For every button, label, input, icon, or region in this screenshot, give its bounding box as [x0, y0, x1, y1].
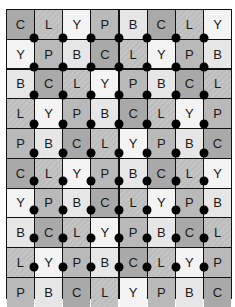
grid-cell: B — [120, 159, 147, 188]
grid-cell: Y — [63, 159, 90, 188]
grid-cell: L — [204, 218, 231, 247]
grid-cell: C — [176, 70, 203, 99]
grid-cell: L — [120, 40, 147, 69]
grid-cell: L — [91, 278, 118, 307]
grid-cell: P — [7, 278, 34, 307]
grid-cell: B — [176, 278, 203, 307]
grid-cell: Y — [35, 248, 62, 277]
grid-cell: Y — [35, 99, 62, 128]
grid-cell: C — [120, 248, 147, 277]
grid-cell: P — [148, 278, 175, 307]
grid-cell: P — [204, 99, 231, 128]
grid-cell: C — [63, 129, 90, 158]
grid-cell: P — [63, 248, 90, 277]
grid-cell: Y — [63, 10, 90, 39]
grid-cell: C — [91, 189, 118, 218]
grid-cell: Y — [91, 218, 118, 247]
grid-cell: Y — [204, 10, 231, 39]
grid-cell: C — [63, 278, 90, 307]
grid-cell: L — [7, 99, 34, 128]
grid-cell: C — [148, 159, 175, 188]
grid-cell: B — [204, 189, 231, 218]
grid-cell: B — [7, 70, 34, 99]
grid-cell: B — [148, 70, 175, 99]
grid-cell: L — [176, 159, 203, 188]
grid-cell: C — [7, 159, 34, 188]
grid-cell: C — [204, 129, 231, 158]
grid-cell: P — [176, 189, 203, 218]
grid-cell: B — [63, 189, 90, 218]
grid-cell: Y — [176, 99, 203, 128]
grid-cell: P — [120, 218, 147, 247]
grid-cell: P — [120, 70, 147, 99]
grid-cell: Y — [148, 189, 175, 218]
grid-cell: L — [63, 70, 90, 99]
grid-cell: C — [176, 218, 203, 247]
grid-cell: C — [148, 10, 175, 39]
grid-cell: Y — [204, 159, 231, 188]
grid-cell: Y — [148, 40, 175, 69]
grid-cell: B — [35, 129, 62, 158]
grid-cell: Y — [120, 278, 147, 307]
grid-cell: L — [7, 248, 34, 277]
grid-cell: L — [63, 218, 90, 247]
grid-cell: C — [7, 10, 34, 39]
grid-cell: L — [91, 129, 118, 158]
grid-cell: C — [91, 40, 118, 69]
grid-cell: L — [204, 70, 231, 99]
grid-cell: P — [204, 248, 231, 277]
grid-cell: P — [35, 189, 62, 218]
grid-cell: B — [35, 278, 62, 307]
grid-cell: L — [120, 189, 147, 218]
grid-cell: P — [148, 129, 175, 158]
grid-cell: B — [91, 248, 118, 277]
grid-cell: Y — [7, 189, 34, 218]
grid-cell: Y — [176, 248, 203, 277]
grid-cell: P — [176, 40, 203, 69]
grid-cell: P — [91, 10, 118, 39]
grid-cell: P — [35, 40, 62, 69]
grid-cell: B — [176, 129, 203, 158]
grid-cell: P — [63, 99, 90, 128]
grid-cell: C — [120, 99, 147, 128]
grid-cell: B — [204, 40, 231, 69]
grid-cell: C — [35, 70, 62, 99]
grid-cell: L — [148, 99, 175, 128]
grid-cell: P — [91, 159, 118, 188]
grid-cell: P — [7, 129, 34, 158]
grid-cell: B — [91, 99, 118, 128]
grid-cell: Y — [91, 70, 118, 99]
grid-cell: C — [35, 218, 62, 247]
grid-cell: L — [35, 159, 62, 188]
grid-cell: B — [120, 10, 147, 39]
grid-cell: B — [63, 40, 90, 69]
grid-cell: L — [148, 248, 175, 277]
grid-cell: B — [7, 218, 34, 247]
grid-cell: L — [35, 10, 62, 39]
grid-cell: C — [204, 278, 231, 307]
grid-cell: L — [176, 10, 203, 39]
grid-cell: Y — [7, 40, 34, 69]
letter-grid: CLYPBCLYYPBCLYPBBCLYPBCLLYPBCLYPPBCLYPBC… — [6, 9, 232, 299]
grid-cell: B — [148, 218, 175, 247]
grid-cell: Y — [120, 129, 147, 158]
